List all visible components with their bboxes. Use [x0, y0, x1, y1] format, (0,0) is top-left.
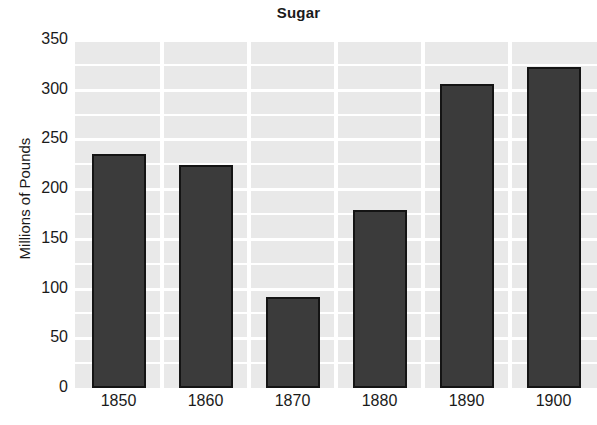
y-axis-tick-label: 200	[0, 179, 68, 197]
bar	[527, 67, 581, 388]
y-axis-label: Millions of Pounds	[16, 89, 33, 309]
y-axis-tick-label: 300	[0, 80, 68, 98]
bar	[266, 297, 320, 388]
y-axis-tick-label: 250	[0, 129, 68, 147]
y-axis-tick-label: 150	[0, 229, 68, 247]
gridline-vertical	[421, 40, 425, 388]
y-axis-tick-label: 100	[0, 279, 68, 297]
gridline-vertical	[508, 40, 512, 388]
chart-figure: Sugar Millions of Pounds 050100150200250…	[0, 0, 597, 425]
plot-area	[75, 40, 597, 388]
x-axis-tick-label: 1880	[336, 392, 423, 410]
x-axis-tick-label: 1890	[423, 392, 510, 410]
x-axis-tick-label: 1900	[510, 392, 597, 410]
gridline-vertical	[247, 40, 251, 388]
x-axis-tick-label: 1870	[249, 392, 336, 410]
chart-title: Sugar	[0, 4, 597, 21]
y-axis-tick-label: 50	[0, 328, 68, 346]
bar	[92, 154, 146, 388]
x-axis-tick-label: 1850	[75, 392, 162, 410]
y-axis-tick-label: 350	[0, 30, 68, 48]
bar	[179, 165, 233, 388]
gridline-vertical	[160, 40, 164, 388]
x-axis-tick-label: 1860	[162, 392, 249, 410]
bar	[353, 210, 407, 388]
bar	[440, 84, 494, 388]
y-axis-tick-label: 0	[0, 378, 68, 396]
gridline-vertical	[334, 40, 338, 388]
